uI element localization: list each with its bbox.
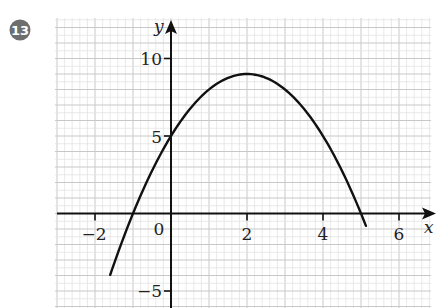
problem-number: 13: [11, 23, 29, 38]
origin-label: 0: [154, 219, 165, 239]
y-tick-label: 5: [151, 127, 162, 147]
y-axis-label: y: [153, 16, 164, 36]
y-tick-label: 10: [140, 49, 162, 69]
chart: 13 −2 2 4 6 0 10 5 −5 y x: [0, 0, 436, 308]
x-axis-label: x: [424, 217, 434, 237]
problem-number-badge: 13: [10, 20, 31, 41]
y-tick-label: −5: [137, 281, 162, 301]
x-tick-label: 4: [318, 224, 329, 244]
y-axis: [165, 20, 177, 308]
x-tick-label: −2: [81, 224, 106, 244]
x-tick-label: 2: [242, 224, 253, 244]
x-tick-label: 6: [394, 224, 405, 244]
grid: [55, 18, 431, 308]
